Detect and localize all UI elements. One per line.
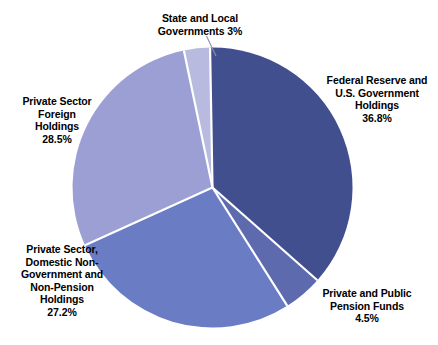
slice-label-federal-reserve: Federal Reserve and U.S. Government Hold…: [316, 74, 438, 124]
slice-label-pension-funds: Private and Public Pension Funds 4.5%: [300, 287, 434, 325]
pie-chart-figure: State and Local Governments 3% Federal R…: [0, 0, 438, 345]
slice-label-state-local: State and Local Governments 3%: [126, 12, 274, 37]
slice-label-domestic-holdings: Private Sector, Domestic Non- Government…: [0, 243, 124, 319]
slice-label-foreign-holdings: Private Sector Foreign Holdings 28.5%: [2, 95, 112, 145]
